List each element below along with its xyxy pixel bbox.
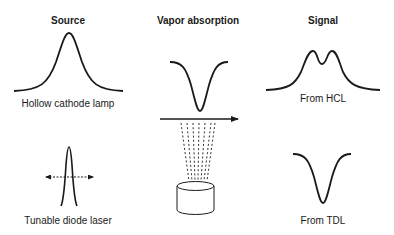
hcl-signal-label: From HCL — [300, 93, 346, 105]
diagram: Source Vapor absorption Signal Hollow ca… — [0, 0, 394, 235]
absorption-dip-signal-icon — [293, 154, 351, 203]
source-heading: Source — [51, 15, 85, 27]
tdl-signal-label: From TDL — [301, 215, 346, 227]
vapor-plume-icon — [181, 123, 215, 181]
broad-gaussian-emission-icon — [14, 33, 123, 91]
self-reversed-doublet-icon — [266, 51, 380, 90]
hcl-source-label: Hollow cathode lamp — [22, 98, 115, 110]
cylinder-sample-cell-icon — [177, 182, 214, 215]
tdl-source-label: Tunable diode laser — [24, 215, 111, 227]
vapor-absorption-heading: Vapor absorption — [157, 15, 239, 27]
signal-heading: Signal — [308, 15, 338, 27]
diagram-graphics — [0, 0, 394, 235]
absorption-dip-icon — [170, 62, 228, 111]
